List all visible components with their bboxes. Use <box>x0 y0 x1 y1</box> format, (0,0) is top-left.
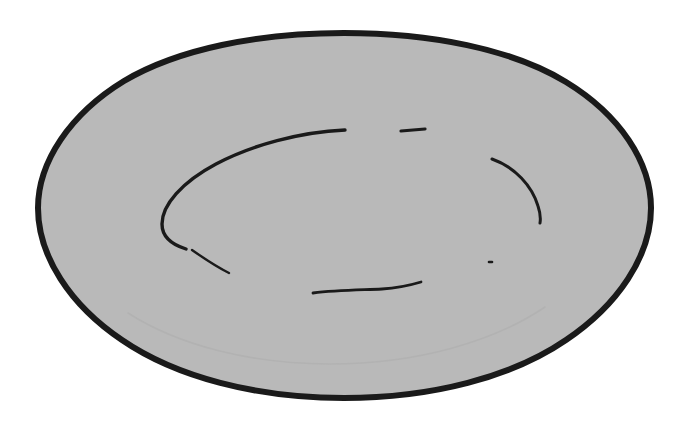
inner-well-dash-top <box>401 129 425 131</box>
plate-sketch-illustration <box>0 0 686 421</box>
plate-rim-outline <box>38 33 651 398</box>
drawing-canvas <box>0 0 686 421</box>
